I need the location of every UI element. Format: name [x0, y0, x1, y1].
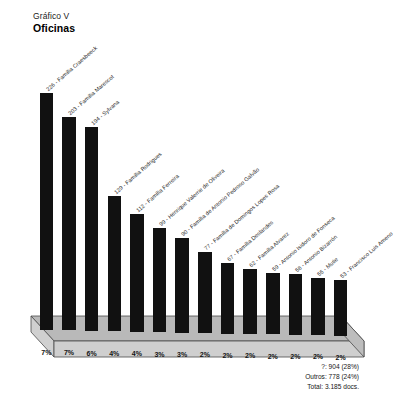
bar-label: 99 - Henrique Valerrie de Oliveira [158, 168, 226, 228]
bar-label: 226 - Família Craesbeeck [45, 45, 98, 92]
chart-page: Gráfico V Oficinas 226 - Família Craesbe… [0, 0, 395, 408]
summary-total: Total: 3.185 docs. [305, 382, 359, 392]
bar [85, 127, 99, 331]
bar [175, 238, 189, 333]
bar [62, 117, 76, 330]
bar-label: 90 - Família de Antonio Pedroso Galvão [180, 167, 260, 238]
bar [108, 196, 122, 331]
bar-label: 55 - Mutie [316, 256, 339, 277]
chart-summary: ?: 904 (28%) Outros: 778 (24%) Total: 3.… [305, 362, 359, 392]
bar [221, 263, 235, 333]
percent-label: 2% [328, 354, 354, 361]
bar [40, 93, 54, 330]
bar [266, 273, 280, 335]
summary-others: Outros: 778 (24%) [305, 372, 359, 382]
plot-area: 226 - Família Craesbeeck7%203 - Família … [0, 0, 395, 408]
bar-label: 112 - Família Ferreira [135, 173, 180, 213]
bar [289, 274, 303, 335]
bar-label: 129 - Família Rodrigues [113, 151, 163, 195]
bar [311, 278, 325, 336]
bar-label: 53 - Francisco Luis Ameno [339, 231, 394, 280]
bar [198, 252, 212, 333]
bar [153, 228, 167, 332]
bar-series: 226 - Família Craesbeeck7%203 - Família … [0, 0, 395, 408]
bar [243, 269, 257, 334]
bar [334, 280, 348, 336]
bar-label: 194 - Sylvana [90, 99, 120, 126]
bar-label: 77 - Família de Domingos Lopes Rosa [203, 183, 280, 251]
bar [130, 214, 144, 332]
summary-unknown: ?: 904 (28%) [305, 362, 359, 372]
